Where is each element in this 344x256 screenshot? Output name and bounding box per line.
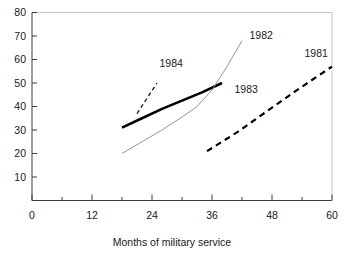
series-line-1981 bbox=[207, 67, 332, 152]
series-label-1984: 1984 bbox=[160, 57, 184, 69]
y-tick-label: 50 bbox=[14, 77, 26, 89]
x-tick-label: 48 bbox=[266, 209, 278, 221]
x-axis-title: Months of military service bbox=[113, 236, 232, 248]
line-chart: 1020304050607080 01224364860 19831982198… bbox=[0, 0, 344, 256]
y-axis-ticks bbox=[32, 13, 37, 178]
series-line-1984 bbox=[137, 83, 157, 114]
series-label-1981: 1981 bbox=[305, 47, 329, 59]
x-axis-tick-labels: 01224364860 bbox=[29, 209, 338, 221]
y-tick-label: 70 bbox=[14, 30, 26, 42]
series-label-1982: 1982 bbox=[250, 29, 274, 41]
x-tick-label: 24 bbox=[146, 209, 158, 221]
x-axis-minor-ticks bbox=[62, 197, 302, 201]
y-tick-label: 40 bbox=[14, 100, 26, 112]
series-line-1983 bbox=[122, 83, 222, 128]
y-tick-label: 60 bbox=[14, 53, 26, 65]
x-tick-label: 36 bbox=[206, 209, 218, 221]
y-axis-tick-labels: 1020304050607080 bbox=[14, 6, 26, 183]
x-tick-label: 12 bbox=[86, 209, 98, 221]
y-tick-label: 20 bbox=[14, 147, 26, 159]
y-tick-label: 10 bbox=[14, 171, 26, 183]
axes-frame bbox=[32, 13, 332, 201]
y-tick-label: 80 bbox=[14, 6, 26, 18]
series-annotations: 1983198219841981 bbox=[160, 29, 329, 95]
y-tick-label: 30 bbox=[14, 124, 26, 136]
series-lines bbox=[122, 41, 332, 154]
x-tick-label: 0 bbox=[29, 209, 35, 221]
series-label-1983: 1983 bbox=[235, 83, 259, 95]
x-tick-label: 60 bbox=[326, 209, 338, 221]
chart-container: 1020304050607080 01224364860 19831982198… bbox=[0, 0, 344, 256]
